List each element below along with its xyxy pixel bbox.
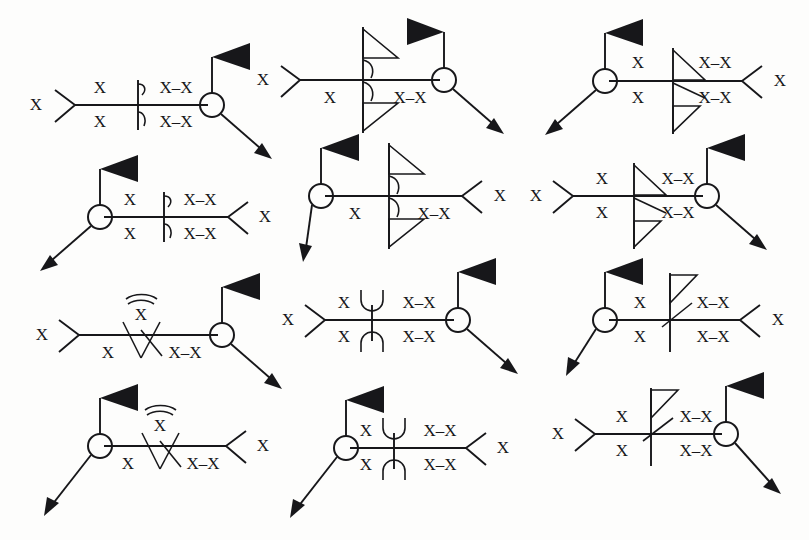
lower-left-label: X: [596, 203, 608, 222]
upper-left-label: X: [616, 407, 628, 426]
lower-right-label: X–X: [168, 343, 201, 362]
upper-right-label: X–X: [402, 293, 435, 312]
tail-label: X: [30, 95, 42, 114]
lower-right-label: X–X: [402, 327, 435, 346]
lower-right-label: X–X: [423, 455, 456, 474]
lower-left-label: X: [338, 327, 350, 346]
tail-label: X: [772, 310, 784, 329]
upper-right-label: X–X: [698, 53, 731, 72]
lower-left-label: X: [616, 441, 628, 460]
lower-right-label: X–X: [186, 454, 219, 473]
lower-right-label: X–X: [696, 327, 729, 346]
lower-right-label: X–X: [183, 224, 216, 243]
above-label: X: [135, 305, 147, 324]
lower-right-label: X–X: [393, 88, 426, 107]
upper-right-label: X–X: [183, 190, 216, 209]
above-label: X: [154, 416, 166, 435]
lower-right-label: X–X: [159, 112, 192, 131]
upper-right-label: X–X: [423, 421, 456, 440]
lower-left-label: X: [324, 88, 336, 107]
lower-left-label: X: [360, 455, 372, 474]
upper-right-label: X–X: [661, 169, 694, 188]
tail-label: X: [36, 325, 48, 344]
tail-label: X: [530, 186, 542, 205]
tail-label: X: [282, 310, 294, 329]
upper-left-label: X: [124, 190, 136, 209]
lower-right-label: X–X: [661, 203, 694, 222]
lower-left-label: X: [122, 454, 134, 473]
tail-label: X: [552, 424, 564, 443]
lower-right-label: X–X: [698, 88, 731, 107]
upper-left-label: X: [360, 421, 372, 440]
diagram-sheet: X X X–X X X–X X X X–X: [0, 0, 809, 540]
upper-left-label: X: [338, 293, 350, 312]
lower-left-label: X: [632, 88, 644, 107]
diagram-canvas: X X X–X X X–X X X X–X: [0, 0, 809, 540]
upper-left-label: X: [596, 169, 608, 188]
upper-right-label: X–X: [159, 78, 192, 97]
lower-left-label: X: [349, 204, 361, 223]
tail-label: X: [257, 436, 269, 455]
lower-right-label: X–X: [679, 441, 712, 460]
tail-label: X: [774, 71, 786, 90]
tail-label: X: [259, 207, 271, 226]
upper-left-label: X: [632, 53, 644, 72]
upper-left-label: X: [634, 293, 646, 312]
lower-left-label: X: [102, 343, 114, 362]
lower-right-label: X–X: [417, 204, 450, 223]
lower-left-label: X: [124, 224, 136, 243]
lower-left-label: X: [634, 327, 646, 346]
upper-right-label: X–X: [696, 293, 729, 312]
upper-left-label: X: [94, 78, 106, 97]
tail-label: X: [494, 186, 506, 205]
tail-label: X: [497, 438, 509, 457]
lower-left-label: X: [94, 112, 106, 131]
upper-right-label: X–X: [679, 407, 712, 426]
tail-label: X: [257, 70, 269, 89]
